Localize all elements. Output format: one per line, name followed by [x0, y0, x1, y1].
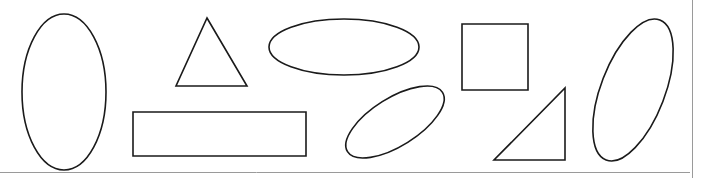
shapes-canvas [0, 0, 702, 178]
shapes-drawing-surface [0, 0, 702, 178]
